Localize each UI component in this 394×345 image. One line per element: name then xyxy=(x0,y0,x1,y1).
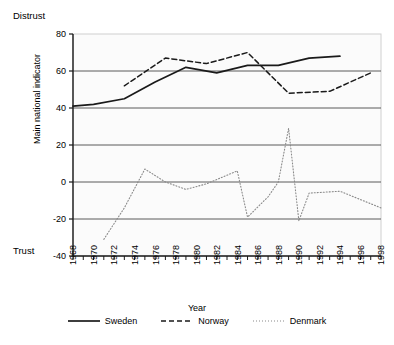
legend-label: Norway xyxy=(198,316,229,326)
x-tick-label: 1968 xyxy=(68,245,78,265)
chart-figure: Distrust Trust Main national indicator Y… xyxy=(0,0,394,345)
y-tick-label: -20 xyxy=(53,214,66,224)
legend-swatch-dotted-icon xyxy=(253,317,285,325)
y-tick-label: 80 xyxy=(56,29,66,39)
x-tick-label: 1974 xyxy=(130,245,140,265)
x-tick-label: 1980 xyxy=(192,245,202,265)
legend-item-norway[interactable]: Norway xyxy=(161,316,229,326)
plot-canvas: 806040200-20-401968197019721974197619781… xyxy=(0,0,394,345)
x-tick-label: 1972 xyxy=(109,245,119,265)
x-tick-label: 1986 xyxy=(253,245,263,265)
y-tick-label: 40 xyxy=(56,103,66,113)
x-tick-label: 1996 xyxy=(356,245,366,265)
y-tick-label: -40 xyxy=(53,251,66,261)
y-tick-label: 20 xyxy=(56,140,66,150)
x-tick-label: 1990 xyxy=(294,245,304,265)
legend-swatch-solid-icon xyxy=(68,317,100,325)
x-tick-label: 1976 xyxy=(151,245,161,265)
x-tick-label: 1982 xyxy=(212,245,222,265)
legend-label: Sweden xyxy=(105,316,138,326)
x-tick-label: 1988 xyxy=(274,245,284,265)
x-tick-label: 1998 xyxy=(376,245,386,265)
x-tick-label: 1994 xyxy=(335,245,345,265)
legend-item-sweden[interactable]: Sweden xyxy=(68,316,138,326)
legend-item-denmark[interactable]: Denmark xyxy=(253,316,327,326)
y-tick-label: 60 xyxy=(56,66,66,76)
legend-label: Denmark xyxy=(290,316,327,326)
x-tick-label: 1992 xyxy=(315,245,325,265)
x-tick-label: 1970 xyxy=(89,245,99,265)
y-tick-label: 0 xyxy=(61,177,66,187)
chart-legend: SwedenNorwayDenmark xyxy=(0,316,394,326)
x-tick-label: 1984 xyxy=(233,245,243,265)
x-tick-label: 1978 xyxy=(171,245,181,265)
legend-swatch-dashed-icon xyxy=(161,317,193,325)
